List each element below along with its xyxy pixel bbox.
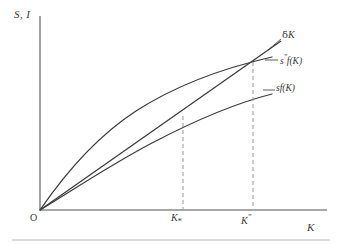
curve-delta-k bbox=[40, 41, 281, 210]
f-argument: (K) bbox=[289, 56, 302, 66]
double-prime-symbol: ″ bbox=[248, 212, 251, 222]
curve-s-f-k bbox=[40, 94, 272, 210]
origin-label: O bbox=[30, 213, 37, 223]
curve-s-double-prime-f-k bbox=[40, 57, 272, 210]
y-axis-label: S, I bbox=[14, 9, 30, 20]
tick-label-k-star: K* bbox=[171, 213, 182, 226]
curve-label-s-double-prime-f-k: s″f(K) bbox=[280, 54, 302, 67]
curve-label-s-f-k: sf(K) bbox=[276, 84, 295, 94]
delta-k-variable: K bbox=[288, 29, 295, 40]
curve-label-delta-k: δK bbox=[282, 30, 295, 40]
x-axis-label: K bbox=[307, 222, 314, 233]
f-argument: (K) bbox=[282, 83, 295, 93]
k-base: K bbox=[241, 215, 248, 226]
k-base: K bbox=[171, 212, 178, 223]
tick-label-k-double-prime: K″ bbox=[241, 213, 251, 226]
leader-line-delta-k bbox=[268, 39, 281, 50]
star-subscript: * bbox=[178, 217, 182, 226]
